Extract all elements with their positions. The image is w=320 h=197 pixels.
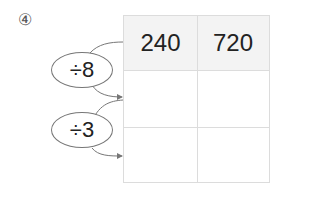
arrow-to-row2 [92, 148, 122, 156]
answer-cell[interactable] [124, 128, 198, 182]
table-row [124, 128, 269, 182]
answer-cell[interactable] [197, 71, 269, 127]
table-row [124, 71, 269, 128]
ratio-table: 240 720 [123, 15, 270, 183]
table-cell: 720 [197, 16, 269, 70]
operator-divide-8: ÷8 [51, 52, 113, 88]
answer-cell[interactable] [124, 71, 198, 127]
arrow-to-row1 [92, 85, 122, 97]
operator-divide-3: ÷3 [51, 112, 113, 148]
answer-cell[interactable] [197, 128, 269, 182]
table-cell: 240 [124, 16, 198, 70]
arrow-from-row0 [90, 42, 123, 53]
table-row: 240 720 [124, 16, 269, 71]
